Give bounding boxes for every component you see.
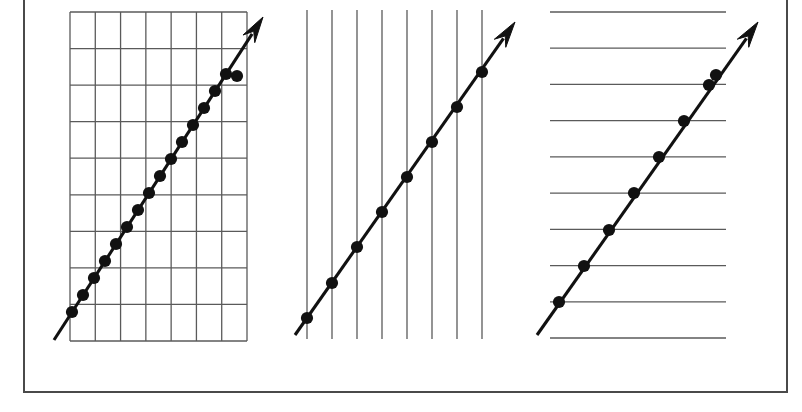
data-point-marker [143,187,155,199]
data-point-marker [132,204,144,216]
figure-canvas [0,0,802,412]
data-point-marker [99,255,111,267]
data-point-marker [176,136,188,148]
data-point-marker [401,171,413,183]
data-point-marker [198,102,210,114]
data-point-marker [154,170,166,182]
data-point-marker [710,69,722,81]
caption-strip [0,394,802,412]
data-point-marker [376,206,388,218]
data-point-marker [66,306,78,318]
data-point-marker [121,221,133,233]
data-point-marker [426,136,438,148]
data-point-marker [553,296,565,308]
data-point-marker [351,241,363,253]
figure-root [0,0,802,412]
data-point-marker [653,151,665,163]
data-point-marker [603,224,615,236]
data-point-marker [301,312,313,324]
data-point-marker [187,119,199,131]
data-point-marker [476,66,488,78]
data-point-marker [88,272,100,284]
data-point-marker [220,68,232,80]
data-point-marker [231,70,243,82]
data-point-marker [326,277,338,289]
data-point-marker [578,260,590,272]
data-point-marker [165,153,177,165]
data-point-marker [628,187,640,199]
data-point-marker [110,238,122,250]
data-point-marker [77,289,89,301]
data-point-marker [703,79,715,91]
data-point-marker [678,115,690,127]
data-point-marker [451,101,463,113]
data-point-marker [209,85,221,97]
